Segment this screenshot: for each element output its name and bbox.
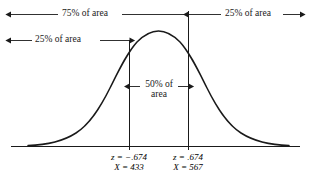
axis-label-right-z: z = .674: [160, 152, 216, 162]
axis-label-right-cutpoint: z = .674 X = 567: [160, 152, 216, 172]
label-25-percent-of-area-left: 25% of area: [35, 35, 81, 45]
label-50-percent-line2: area: [137, 90, 181, 100]
label-50-percent-line1: 50% of: [145, 79, 173, 89]
label-75-percent-of-area: 75% of area: [62, 9, 108, 19]
normal-distribution-figure: 75% of area 25% of area 25% of area 50% …: [0, 0, 328, 183]
label-25-percent-of-area-right: 25% of area: [225, 9, 271, 19]
axis-label-right-x: X = 567: [160, 162, 216, 172]
axis-label-left-x: X = 433: [101, 162, 157, 172]
axis-label-left-cutpoint: z = −.674 X = 433: [101, 152, 157, 172]
label-50-percent-of-area: 50% of area: [137, 80, 181, 100]
axis-label-left-z: z = −.674: [101, 152, 157, 162]
